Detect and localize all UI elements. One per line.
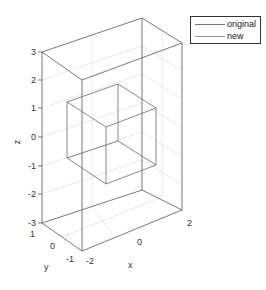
z-tick-neg3: -3: [28, 218, 36, 228]
z-tick-3: 3: [31, 47, 36, 57]
legend-line-original-icon: [195, 24, 225, 25]
z-tick-neg2: -2: [28, 189, 36, 199]
legend-item-new: new: [191, 30, 260, 42]
y-tick-0: 0: [50, 241, 55, 251]
series-original-box: [42, 18, 182, 251]
legend-label-new: new: [227, 30, 244, 42]
x-axis-label: x: [128, 260, 133, 270]
series-new-cube: [67, 84, 156, 184]
z-axis-label: z: [12, 139, 22, 144]
x-tick-neg2: -2: [86, 256, 94, 266]
z-tick-0: 0: [31, 132, 36, 142]
legend-line-new-icon: [195, 36, 225, 37]
y-axis-label: y: [44, 262, 49, 272]
grid: [42, 30, 182, 237]
y-tick-1: 1: [30, 229, 35, 239]
y-tick-neg1: -1: [66, 254, 74, 264]
legend: original new: [190, 16, 261, 44]
z-tick-2: 2: [31, 75, 36, 85]
z-tick-1: 1: [31, 103, 36, 113]
x-tick-0: 0: [137, 237, 142, 247]
legend-label-original: original: [227, 18, 256, 30]
x-tick-2: 2: [187, 218, 192, 228]
z-tick-neg1: -1: [28, 161, 36, 171]
legend-item-original: original: [191, 18, 260, 30]
